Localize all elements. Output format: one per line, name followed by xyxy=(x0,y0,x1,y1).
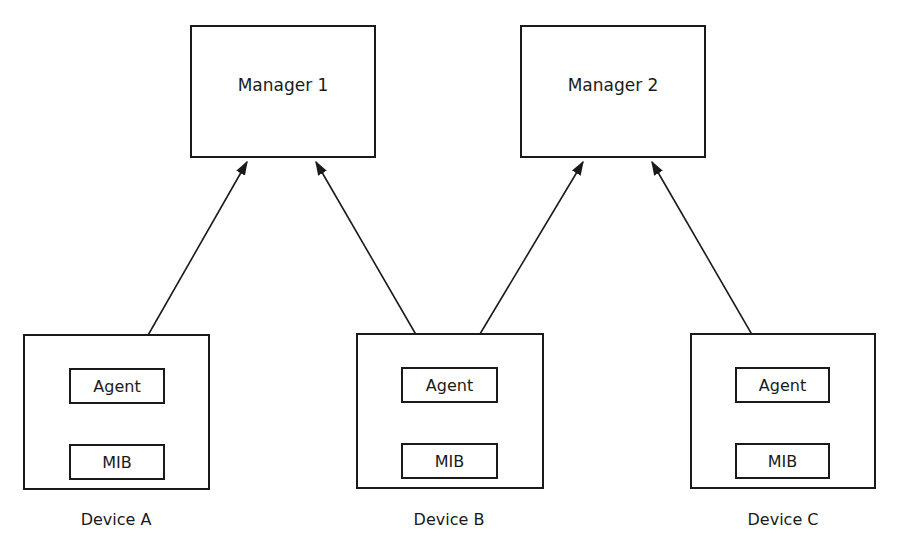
mib-label: MIB xyxy=(768,452,798,471)
device-a-mib: MIB xyxy=(69,444,165,480)
device-c-caption: Device C xyxy=(690,510,876,529)
device-c-mib: MIB xyxy=(735,443,830,479)
device-a-agent: Agent xyxy=(69,368,165,404)
manager-1-label: Manager 1 xyxy=(238,75,329,95)
mib-label: MIB xyxy=(435,452,465,471)
manager-1-box: Manager 1 xyxy=(190,25,376,158)
device-a-caption: Device A xyxy=(23,510,209,529)
manager-2-box: Manager 2 xyxy=(520,25,706,158)
agent-label: Agent xyxy=(759,376,806,395)
agent-label: Agent xyxy=(93,377,140,396)
manager-2-label: Manager 2 xyxy=(568,75,659,95)
device-b-mib: MIB xyxy=(401,443,498,479)
mib-label: MIB xyxy=(102,453,132,472)
device-b-agent: Agent xyxy=(401,367,498,403)
agent-label: Agent xyxy=(426,376,473,395)
device-b-caption: Device B xyxy=(356,510,542,529)
device-c-agent: Agent xyxy=(735,367,830,403)
